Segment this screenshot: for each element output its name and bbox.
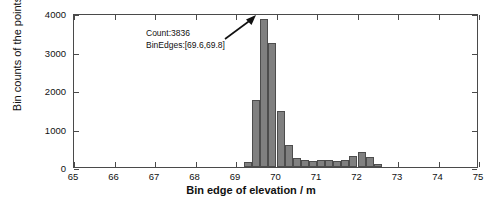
histogram-bar (277, 111, 285, 167)
x-axis-title: Bin edge of elevation / m (0, 184, 502, 196)
histogram-bar (341, 160, 349, 167)
y-tick-mark (74, 92, 79, 93)
x-tick-mark (196, 162, 197, 167)
y-tick-mark (472, 54, 477, 55)
y-axis-title: Bin counts of the points (11, 0, 23, 134)
x-tick-mark (277, 15, 278, 20)
histogram-bar (333, 161, 341, 167)
y-tick-mark (74, 169, 79, 170)
histogram-bar (309, 161, 317, 167)
histogram-bar (252, 100, 260, 167)
x-tick-mark (358, 162, 359, 167)
x-tick-mark (439, 15, 440, 20)
y-tick-mark (74, 131, 79, 132)
y-tick-mark (74, 15, 79, 16)
x-tick-mark (398, 162, 399, 167)
x-tick-label: 68 (189, 171, 200, 182)
x-tick-mark (277, 162, 278, 167)
histogram-figure: 6566676869707172737475 01000200030004000… (0, 0, 502, 209)
histogram-bar (325, 160, 333, 167)
x-tick-label: 65 (68, 171, 79, 182)
y-tick-label: 0 (0, 163, 66, 174)
y-tick-mark (74, 54, 79, 55)
x-tick-mark (236, 162, 237, 167)
x-tick-label: 75 (473, 171, 484, 182)
x-tick-mark (479, 162, 480, 167)
peak-annotation: Count:3836 BinEdges:[69.6,69.8] (146, 28, 225, 51)
x-tick-mark (196, 15, 197, 20)
histogram-bar (301, 160, 309, 167)
y-tick-mark (472, 169, 477, 170)
annotation-count-text: Count:3836 (146, 28, 225, 40)
x-tick-mark (317, 162, 318, 167)
x-tick-label: 74 (432, 171, 443, 182)
x-tick-mark (115, 15, 116, 20)
x-tick-mark (74, 162, 75, 167)
plot-area (73, 14, 478, 168)
histogram-bar (358, 152, 366, 167)
x-tick-mark (155, 162, 156, 167)
x-tick-label: 72 (351, 171, 362, 182)
y-tick-mark (472, 15, 477, 16)
x-tick-label: 67 (149, 171, 160, 182)
annotation-binedges-text: BinEdges:[69.6,69.8] (146, 40, 225, 52)
x-tick-label: 70 (270, 171, 281, 182)
histogram-bar (244, 162, 252, 167)
x-tick-mark (115, 162, 116, 167)
y-tick-label: 3000 (0, 47, 66, 58)
x-tick-label: 66 (108, 171, 119, 182)
y-tick-label: 4000 (0, 9, 66, 20)
y-tick-label: 2000 (0, 86, 66, 97)
x-tick-mark (439, 162, 440, 167)
histogram-bars (74, 15, 477, 167)
histogram-bar (366, 157, 374, 167)
histogram-bar (293, 158, 301, 167)
histogram-bar (374, 164, 382, 167)
histogram-bar (268, 43, 276, 167)
y-tick-mark (472, 92, 477, 93)
x-tick-mark (398, 15, 399, 20)
x-tick-label: 69 (230, 171, 241, 182)
x-tick-mark (479, 15, 480, 20)
y-tick-label: 1000 (0, 124, 66, 135)
x-tick-mark (317, 15, 318, 20)
annotation-arrow-icon (222, 13, 262, 43)
histogram-bar (349, 156, 357, 167)
x-tick-mark (358, 15, 359, 20)
histogram-bar (285, 145, 293, 167)
y-tick-mark (472, 131, 477, 132)
x-tick-label: 71 (311, 171, 322, 182)
x-tick-mark (155, 15, 156, 20)
x-tick-label: 73 (392, 171, 403, 182)
histogram-bar (317, 160, 325, 167)
